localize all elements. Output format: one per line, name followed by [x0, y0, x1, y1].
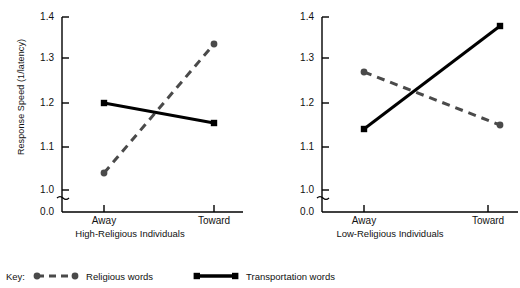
legend-text-religious-words: Religious words [86, 271, 153, 282]
legend-text-transportation-words: Transportation words [246, 271, 335, 282]
axis-break-icon [57, 197, 69, 200]
legend-entry-religious-words: Religious words [33, 270, 153, 282]
legend: Key: Religious words Transportation word… [6, 268, 518, 284]
x-tick-label-away-right: Away [334, 216, 394, 226]
panel-high-religious: Response Speed (1/latency) 1.4 1.3 1.2 1… [0, 0, 260, 258]
panel-title-low-religious: Low-Religious Individuals [260, 228, 520, 239]
legend-label: Key: [6, 271, 25, 282]
x-tick-label-away: Away [74, 216, 134, 226]
panel-container: Response Speed (1/latency) 1.4 1.3 1.2 1… [0, 0, 520, 258]
x-tick-label-toward: Toward [184, 216, 244, 226]
axis-break-icon-right [317, 197, 329, 200]
series-religious-words [101, 41, 218, 177]
dashed-line-circle-marker-icon [33, 270, 79, 282]
series-transportation-words [101, 100, 217, 126]
panel-title-high-religious: High-Religious Individuals [0, 228, 260, 239]
legend-entry-transportation-words: Transportation words [193, 270, 335, 282]
figure: Response Speed (1/latency) 1.4 1.3 1.2 1… [0, 0, 520, 288]
solid-line-square-marker-icon [193, 270, 239, 282]
panel-low-religious: 1.4 1.3 1.2 1.1 1.0 0.0 [260, 0, 520, 258]
x-tick-label-toward-right: Toward [458, 216, 518, 226]
